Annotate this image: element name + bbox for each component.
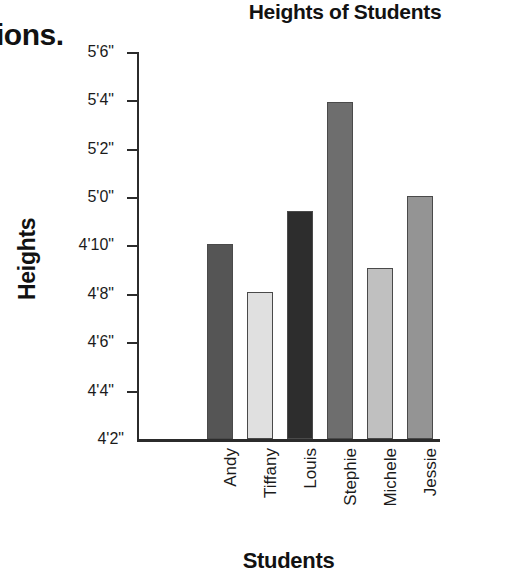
x-category-label-stephie: Stephie xyxy=(341,448,361,506)
cut-off-text-fragment: ions. xyxy=(0,18,64,52)
y-tick-0: 5'6" xyxy=(127,52,139,54)
bar-chart-plot-area: 5'6" 5'4" 5'2" 5'0" 4'10" 4'8" 4'6" 4'4"… xyxy=(137,52,440,442)
bar-jessie[interactable] xyxy=(407,196,433,439)
bar-andy[interactable] xyxy=(207,244,233,439)
y-axis-title: Heights xyxy=(14,218,41,300)
y-tick-label-0: 5'6" xyxy=(87,43,114,61)
y-tick-3: 5'0" xyxy=(127,197,139,199)
y-tick-8: 4'2" xyxy=(137,439,139,441)
x-axis-title: Students xyxy=(137,548,440,574)
y-tick-label-3: 5'0" xyxy=(87,188,114,206)
y-tick-label-8: 4'2" xyxy=(97,430,124,448)
y-tick-label-5: 4'8" xyxy=(87,285,114,303)
y-tick-label-6: 4'6" xyxy=(87,333,114,351)
y-tick-4: 4'10" xyxy=(127,245,139,247)
y-tick-label-4: 4'10" xyxy=(79,236,114,254)
y-tick-5: 4'8" xyxy=(127,294,139,296)
y-tick-2: 5'2" xyxy=(127,149,139,151)
bar-michele[interactable] xyxy=(367,268,393,439)
x-category-label-michele: Michele xyxy=(381,448,401,507)
chart-title: Heights of Students xyxy=(190,0,500,24)
x-category-label-andy: Andy xyxy=(221,448,241,487)
y-tick-7: 4'4" xyxy=(127,391,139,393)
bar-stephie[interactable] xyxy=(327,102,353,439)
x-category-label-tiffany: Tiffany xyxy=(261,448,281,498)
x-axis-line xyxy=(137,439,440,442)
x-category-label-jessie: Jessie xyxy=(421,448,441,496)
y-tick-1: 5'4" xyxy=(127,100,139,102)
x-category-label-louis: Louis xyxy=(301,448,321,489)
bar-louis[interactable] xyxy=(287,211,313,439)
y-axis-line xyxy=(137,52,139,442)
y-tick-label-7: 4'4" xyxy=(87,382,114,400)
y-tick-label-2: 5'2" xyxy=(87,140,114,158)
y-tick-6: 4'6" xyxy=(127,342,139,344)
bar-tiffany[interactable] xyxy=(247,292,273,439)
y-tick-label-1: 5'4" xyxy=(87,91,114,109)
